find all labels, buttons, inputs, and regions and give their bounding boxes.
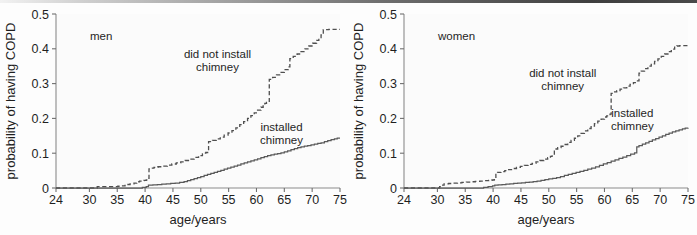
x-tick-label: 75 xyxy=(681,193,695,207)
x-tick-label: 40 xyxy=(486,193,500,207)
curve-annotation-installed-chimney: installed xyxy=(260,121,302,133)
x-tick-label: 40 xyxy=(138,193,152,207)
curve-annotation-did-not-install-chimney: chimney xyxy=(541,80,584,92)
x-tick-label: 55 xyxy=(570,193,584,207)
y-tick-label: 0 xyxy=(42,182,49,196)
x-tick-label: 45 xyxy=(166,193,180,207)
panel-men: 243035404550556065707500.10.20.30.40.5ag… xyxy=(0,0,349,235)
x-tick-label: 75 xyxy=(333,193,347,207)
x-tick-label: 60 xyxy=(598,193,612,207)
y-tick-label: 0.2 xyxy=(380,112,397,126)
x-tick-label: 55 xyxy=(222,193,236,207)
curve-annotation-did-not-install-chimney: chimney xyxy=(196,61,239,73)
x-tick-label: 65 xyxy=(625,193,639,207)
x-tick-label: 24 xyxy=(49,193,63,207)
y-tick-label: 0.5 xyxy=(32,8,49,22)
y-tick-label: 0.3 xyxy=(32,77,49,91)
y-tick-label: 0.5 xyxy=(380,8,397,22)
x-tick-label: 24 xyxy=(397,193,411,207)
y-axis-title: probability of having COPD xyxy=(351,23,366,180)
x-axis-title: age/years xyxy=(517,212,575,227)
x-tick-label: 70 xyxy=(305,193,319,207)
y-axis-title: probability of having COPD xyxy=(3,23,18,180)
curve-annotation-did-not-install-chimney: did not install xyxy=(529,67,596,79)
y-tick-label: 0 xyxy=(390,182,397,196)
y-tick-label: 0.1 xyxy=(32,147,49,161)
y-tick-label: 0.1 xyxy=(380,147,397,161)
curve-annotation-installed-chimney: installed xyxy=(611,107,653,119)
x-tick-label: 50 xyxy=(194,193,208,207)
panel-label-women: women xyxy=(437,30,475,42)
curve-annotation-did-not-install-chimney: did not install xyxy=(184,48,251,60)
x-tick-label: 70 xyxy=(653,193,667,207)
x-tick-label: 30 xyxy=(430,193,444,207)
y-tick-label: 0.4 xyxy=(380,42,397,56)
y-tick-label: 0.4 xyxy=(32,42,49,56)
figure-container: 243035404550556065707500.10.20.30.40.5ag… xyxy=(0,0,697,235)
curve-annotation-installed-chimney: chimney xyxy=(611,120,654,132)
x-tick-label: 35 xyxy=(110,193,124,207)
x-tick-label: 50 xyxy=(542,193,556,207)
x-tick-label: 60 xyxy=(250,193,264,207)
chart-men: 243035404550556065707500.10.20.30.40.5ag… xyxy=(0,0,349,235)
panel-women: 243035404550556065707500.10.20.30.40.5ag… xyxy=(348,0,697,235)
x-tick-label: 45 xyxy=(514,193,528,207)
x-tick-label: 30 xyxy=(82,193,96,207)
x-tick-label: 35 xyxy=(458,193,472,207)
curve-annotation-installed-chimney: chimney xyxy=(260,134,303,146)
y-tick-label: 0.3 xyxy=(380,77,397,91)
y-tick-label: 0.2 xyxy=(32,112,49,126)
chart-women: 243035404550556065707500.10.20.30.40.5ag… xyxy=(348,0,697,235)
x-axis-title: age/years xyxy=(169,212,227,227)
x-tick-label: 65 xyxy=(277,193,291,207)
panel-label-men: men xyxy=(90,30,112,42)
